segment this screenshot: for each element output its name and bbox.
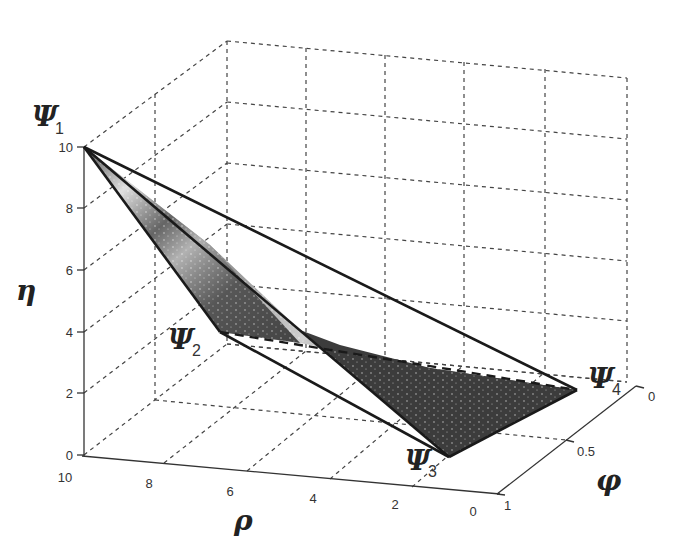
svg-text:0: 0 [648,389,655,404]
tick-marks [77,147,644,495]
svg-text:6: 6 [66,263,73,278]
axes [82,147,636,494]
edge-psi1-psi3 [84,147,449,457]
eta-axis-label: η [16,274,36,307]
svg-text:0.5: 0.5 [577,444,595,459]
rho-tick-labels: 10 8 6 4 2 0 [58,470,477,519]
svg-text:1: 1 [55,120,64,137]
svg-text:4: 4 [612,381,621,398]
svg-text:8: 8 [66,201,73,216]
shaded-surface [84,147,577,457]
svg-text:0: 0 [66,448,73,463]
svg-text:2: 2 [391,497,398,512]
phi-axis-label: φ [596,464,622,497]
svg-text:0: 0 [469,504,476,519]
svg-text:8: 8 [145,476,152,491]
vertex-label-psi1: Ψ 1 [32,100,64,137]
svg-text:10: 10 [59,140,73,155]
svg-text:2: 2 [66,386,73,401]
vertex-label-psi3: Ψ 3 [405,444,437,480]
surface-plot: 10 8 6 4 2 0 10 8 6 4 2 0 0 0.5 1 η ρ φ … [0,0,681,549]
vertex-label-psi2: Ψ 2 [168,323,201,359]
svg-text:1: 1 [504,498,511,513]
svg-text:2: 2 [192,342,201,359]
svg-text:6: 6 [226,484,233,499]
rho-axis-label: ρ [233,504,253,537]
svg-text:10: 10 [58,470,72,485]
svg-text:3: 3 [428,463,437,480]
svg-text:4: 4 [66,325,73,340]
svg-text:4: 4 [309,491,316,506]
vertex-label-psi4: Ψ 4 [588,362,621,398]
eta-tick-labels: 10 8 6 4 2 0 [59,140,73,463]
